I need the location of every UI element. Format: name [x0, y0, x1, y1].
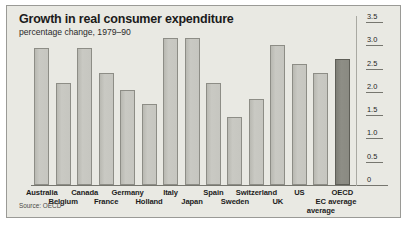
bar-slot [246, 22, 267, 185]
y-axis: 3.53.02.52.01.51.00.50 [356, 6, 402, 219]
x-axis-baseline [31, 185, 388, 186]
bar [206, 83, 221, 185]
bar-slot [74, 22, 95, 185]
bar-slot [224, 22, 245, 185]
bar-slot [117, 22, 138, 185]
bar [99, 73, 114, 185]
y-axis-tick-label: 3.0 [367, 36, 377, 44]
y-axis-tick-line [366, 162, 383, 163]
bar-slot [289, 22, 310, 185]
y-axis-tick-line [366, 138, 383, 139]
y-axis-tick-label: 0.5 [367, 153, 377, 161]
bar-slot [310, 22, 331, 185]
bar-slot [138, 22, 159, 185]
plot-area [31, 22, 353, 185]
bar [56, 83, 71, 185]
category-label: OECDaverage [321, 189, 363, 206]
y-axis-tick-label: 1.5 [367, 106, 377, 114]
bar [120, 90, 135, 185]
y-axis-tick-label: 2.0 [367, 83, 377, 91]
bar [270, 45, 285, 185]
source-note: Source: OECD [19, 202, 61, 210]
bar [142, 104, 157, 186]
bar [335, 59, 350, 185]
y-axis-tick-label: 3.5 [367, 13, 377, 21]
bar-slot [31, 22, 52, 185]
bar-slot [160, 22, 181, 185]
bar [34, 48, 49, 185]
chart-figure: Growth in real consumer expenditure perc… [0, 0, 407, 225]
bar-slot [267, 22, 288, 185]
y-axis-tick-label: 0 [367, 176, 371, 184]
chart-panel: Growth in real consumer expenditure perc… [6, 5, 401, 218]
bar [249, 99, 264, 185]
bar-slot [332, 22, 353, 185]
bar-slot [95, 22, 116, 185]
bar [313, 73, 328, 185]
y-axis-tick-line [366, 115, 383, 116]
category-labels: AustraliaBelgiumCanadaFranceGermanyHolla… [31, 187, 353, 221]
bar-slot [203, 22, 224, 185]
category-label-slot: OECDaverage [332, 187, 353, 221]
y-axis-tick-line [366, 92, 383, 93]
bars-layer [31, 22, 353, 185]
bar [292, 64, 307, 185]
bar [227, 117, 242, 185]
y-axis-tick-line [366, 45, 383, 46]
y-axis-tick-label: 1.0 [367, 129, 377, 137]
y-axis-tick-line [366, 69, 383, 70]
y-axis-tick-line [366, 22, 383, 23]
bar [163, 38, 178, 185]
bar-slot [181, 22, 202, 185]
bar-slot [52, 22, 73, 185]
y-axis-tick-label: 2.5 [367, 60, 377, 68]
bar [77, 48, 92, 185]
bar [185, 38, 200, 185]
